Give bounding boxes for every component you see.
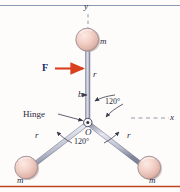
distance-b-label: b bbox=[78, 90, 83, 99]
origin-label: O bbox=[85, 128, 92, 137]
rod-label-lower-left: r bbox=[35, 131, 39, 140]
mass-label-bottom-right: m bbox=[149, 176, 156, 185]
physics-figure-three-masses-hinge: y x m r b F Hinge O 120° 120° r r m m bbox=[0, 0, 180, 192]
x-axis-label: x bbox=[170, 113, 174, 122]
mass-label-top: m bbox=[100, 37, 107, 46]
hinge-label: Hinge bbox=[23, 110, 45, 119]
rod-label-vertical: r bbox=[93, 70, 97, 79]
angle-label-upper: 120° bbox=[105, 98, 120, 106]
force-label: F bbox=[42, 63, 48, 73]
hinge-joint bbox=[84, 118, 92, 126]
y-axis-label: y bbox=[84, 2, 88, 11]
rod-label-lower-right: r bbox=[127, 131, 131, 140]
hinge-leader-line bbox=[58, 114, 83, 121]
figure-canvas bbox=[0, 0, 180, 192]
rod-vertical bbox=[85, 46, 90, 123]
rod-lower-right bbox=[87, 122, 142, 165]
mass-sphere-top bbox=[76, 28, 100, 52]
mass-label-bottom-left: m bbox=[17, 176, 24, 185]
angle-label-lower: 120° bbox=[74, 138, 89, 146]
